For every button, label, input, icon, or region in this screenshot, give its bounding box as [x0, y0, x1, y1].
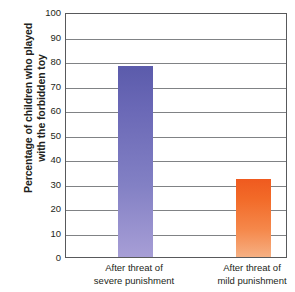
y-axis-tick-80: 80	[34, 57, 61, 67]
y-axis-tick-90: 90	[34, 33, 61, 43]
x-axis-label-1: After threat ofsevere punishment	[74, 262, 194, 287]
y-axis-tick-20: 20	[34, 204, 61, 214]
gridline-70	[66, 88, 286, 89]
y-axis-tick-50: 50	[34, 131, 61, 141]
y-axis-tick-0: 0	[34, 253, 61, 263]
x-axis-label-2-line-2: mild punishment	[192, 275, 295, 288]
x-axis-label-1-line-1: After threat of	[74, 262, 194, 275]
y-axis-tick-labels: 0102030405060708090100	[34, 13, 61, 258]
y-axis-tick-70: 70	[34, 82, 61, 92]
y-axis-tick-30: 30	[34, 180, 61, 190]
gridline-50	[66, 137, 286, 138]
gridline-90	[66, 39, 286, 40]
bar-chart: Percentage of children who played with t…	[0, 0, 295, 292]
gridline-60	[66, 112, 286, 113]
x-axis-category-labels: After threat ofsevere punishmentAfter th…	[65, 262, 287, 292]
x-axis-label-2-line-1: After threat of	[192, 262, 295, 275]
gridline-80	[66, 63, 286, 64]
bar-1	[118, 66, 153, 257]
y-axis-tick-60: 60	[34, 106, 61, 116]
x-axis-label-1-line-2: severe punishment	[74, 275, 194, 288]
y-axis-tick-10: 10	[34, 229, 61, 239]
bar-2	[236, 179, 271, 257]
x-axis-label-2: After threat ofmild punishment	[192, 262, 295, 287]
y-axis-tick-40: 40	[34, 155, 61, 165]
gridline-40	[66, 161, 286, 162]
y-axis-tick-100: 100	[34, 8, 61, 18]
plot-area	[65, 13, 287, 258]
